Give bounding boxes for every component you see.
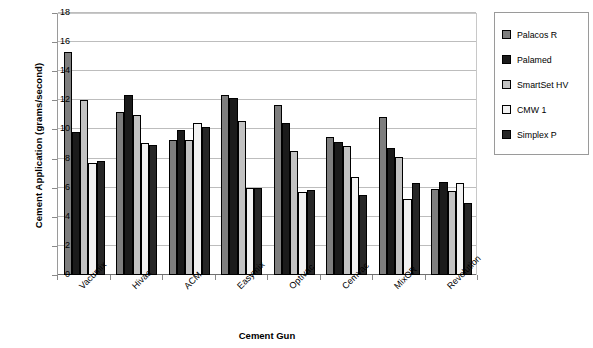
x-tick-mark [110, 275, 111, 280]
bar [379, 117, 387, 275]
legend-item[interactable]: Palacos R [502, 22, 588, 47]
bar [431, 189, 439, 275]
bar [72, 132, 80, 275]
bar-group [216, 14, 269, 275]
bar [448, 191, 456, 275]
bar [169, 140, 177, 275]
y-tick-mark-18 [52, 13, 57, 14]
bar-group [426, 14, 479, 275]
y-axis-title: Cement Application (grams/second) [33, 16, 44, 276]
bar-groups [58, 14, 476, 275]
bar-group [268, 14, 321, 275]
bar [412, 183, 420, 275]
bar [202, 127, 210, 275]
legend-item[interactable]: Simplex P [502, 122, 588, 147]
y-tick-label-16: 16 [46, 37, 70, 46]
y-tick-mark-14 [52, 71, 57, 72]
y-tick-label-0: 0 [46, 270, 70, 279]
bar-group [373, 14, 426, 275]
legend-swatch-icon [502, 30, 511, 39]
y-tick-label-8: 8 [46, 154, 70, 163]
legend-label: CMW 1 [517, 105, 546, 115]
bar [290, 151, 298, 275]
bar [439, 182, 447, 275]
legend-item[interactable]: SmartSet HV [502, 72, 588, 97]
y-tick-label-10: 10 [46, 124, 70, 133]
bar [124, 95, 132, 275]
bar-group [58, 14, 111, 275]
y-tick-mark-8 [52, 159, 57, 160]
y-tick-label-14: 14 [46, 66, 70, 75]
bar [185, 140, 193, 275]
bar [351, 177, 359, 275]
bar [274, 105, 282, 275]
bar [88, 163, 96, 275]
gridline-18 [58, 12, 476, 13]
x-tick-mark [477, 275, 478, 280]
y-tick-mark-12 [52, 100, 57, 101]
x-tick-mark [162, 275, 163, 280]
y-tick-mark-2 [52, 246, 57, 247]
legend-swatch-icon [502, 105, 511, 114]
bar [141, 143, 149, 275]
x-tick-mark [320, 275, 321, 280]
bar [97, 161, 105, 275]
bar [334, 142, 342, 275]
bar [282, 123, 290, 275]
bar [246, 188, 254, 275]
legend: Palacos RPalamedSmartSet HVCMW 1Simplex … [494, 12, 589, 155]
bar [343, 146, 351, 275]
y-tick-mark-16 [52, 42, 57, 43]
bar [387, 148, 395, 275]
bar [221, 95, 229, 275]
x-tick-mark [267, 275, 268, 280]
plot-area [57, 13, 477, 275]
y-tick-label-4: 4 [46, 212, 70, 221]
bar [149, 145, 157, 275]
bar-chart-figure: Cement Application (grams/second) Cement… [0, 0, 593, 348]
legend-swatch-icon [502, 55, 511, 64]
legend-swatch-icon [502, 130, 511, 139]
legend-label: Palacos R [517, 30, 557, 40]
bar-group [111, 14, 164, 275]
legend-item[interactable]: CMW 1 [502, 97, 588, 122]
bar [298, 192, 306, 275]
bar [133, 115, 141, 275]
bar [229, 98, 237, 275]
y-tick-label-12: 12 [46, 95, 70, 104]
y-tick-label-6: 6 [46, 183, 70, 192]
bar [193, 123, 201, 275]
legend-label: Palamed [517, 55, 552, 65]
bar [116, 112, 124, 275]
y-tick-label-18: 18 [46, 8, 70, 17]
y-tick-label-2: 2 [46, 241, 70, 250]
x-axis-title: Cement Gun [57, 330, 477, 341]
bar [177, 130, 185, 275]
bar [80, 100, 88, 275]
bar [395, 157, 403, 275]
x-tick-mark [425, 275, 426, 280]
y-tick-mark-6 [52, 188, 57, 189]
bar [456, 183, 464, 275]
legend-swatch-icon [502, 80, 511, 89]
y-tick-mark-0 [52, 275, 57, 276]
bar-group [163, 14, 216, 275]
y-tick-mark-10 [52, 129, 57, 130]
legend-label: SmartSet HV [517, 80, 568, 90]
legend-item[interactable]: Palamed [502, 47, 588, 72]
legend-label: Simplex P [517, 130, 557, 140]
x-tick-mark [372, 275, 373, 280]
bar-group [321, 14, 374, 275]
bar [326, 137, 334, 275]
x-tick-mark [215, 275, 216, 280]
bar [238, 121, 246, 275]
y-tick-mark-4 [52, 217, 57, 218]
bar [403, 199, 411, 275]
